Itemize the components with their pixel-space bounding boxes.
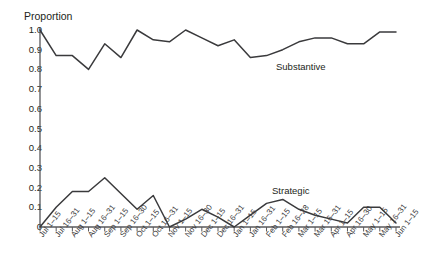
series-label-strategic: Strategic — [272, 185, 310, 196]
series-label-substantive: Substantive — [276, 61, 326, 72]
